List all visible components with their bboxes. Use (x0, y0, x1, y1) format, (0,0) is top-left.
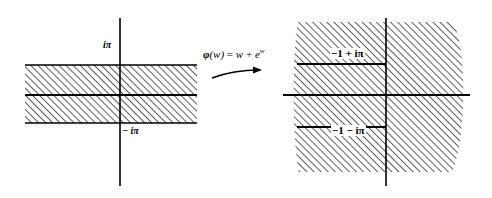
formula-equals: = (224, 48, 236, 60)
formula-plus-sign: + (243, 48, 255, 60)
conformal-mapping-figure: iπ − iπ −1 + iπ −1 − iπ φ(w) = w + ew (0, 0, 492, 198)
label-minus-one-plus-i-pi: −1 + iπ (330, 48, 365, 59)
mapping-arrow-group (212, 67, 262, 79)
figure-canvas (0, 0, 492, 198)
mapping-arrow-curve (212, 70, 259, 78)
formula-argument: (w) (209, 48, 224, 60)
left-strip-hatched-region (25, 65, 197, 123)
label-i-pi: iπ (103, 40, 111, 50)
label-minus-i-pi: − iπ (122, 126, 139, 136)
mapping-formula: φ(w) = w + ew (203, 48, 264, 60)
right-panel-group (283, 15, 480, 186)
label-minus-one-minus-i-pi: −1 − iπ (331, 125, 366, 136)
right-hatched-region (285, 15, 480, 180)
formula-exponent: w (260, 47, 265, 55)
mapping-arrow-head (253, 67, 262, 74)
